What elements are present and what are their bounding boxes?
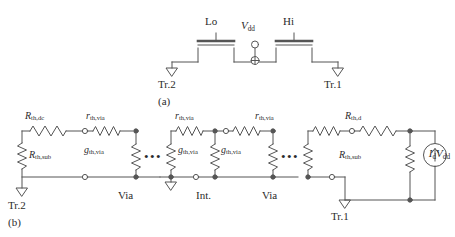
g-th-via-right-subscript: th,via [226, 148, 241, 155]
r-th-d-label: Rth,d [345, 111, 361, 122]
panel-a-ground-left-label: Tr.2 [158, 79, 176, 90]
gate-lo-label: Lo [205, 16, 217, 27]
current-source-label: IdVdd [429, 148, 450, 161]
figure-vector-layer [0, 0, 455, 237]
gate-hi-label: Hi [283, 16, 294, 27]
r-th-via-mid-label: rth,via [175, 111, 194, 122]
r-th-via-left-label: rth,via [86, 111, 105, 122]
voltage-subscript: dd [443, 153, 450, 161]
ellipsis-right: ••• [281, 150, 299, 163]
g-th-via-right-label: gth,via [221, 145, 241, 156]
region-label-via-left: Via [118, 190, 133, 201]
vdd-symbol: V [241, 19, 248, 31]
region-label-int: Int. [196, 190, 211, 201]
r-th-via-right-subscript: th,via [259, 114, 274, 121]
panel-b-ground-tr1-label: Tr.1 [331, 211, 349, 222]
g-th-via-mid-subscript: th,via [183, 148, 198, 155]
r-th-via-right-label: rth,via [255, 111, 274, 122]
thermal-network-figure: Lo Hi Vdd Tr.2 Tr.1 (a) Rth,dc rth,via r… [0, 0, 455, 237]
r-th-via-left-subscript: th,via [90, 114, 105, 121]
panel-b-ground-tr2-label: Tr.2 [8, 200, 26, 211]
r-th-sub-left-subscript: th,sub [35, 153, 51, 160]
r-th-d-subscript: th,d [351, 114, 361, 121]
vdd-label: Vdd [241, 20, 255, 33]
caption-a: (a) [158, 96, 170, 107]
r-th-sub-right-subscript: th,sub [345, 153, 361, 160]
g-th-via-left-label: gth,via [84, 145, 104, 156]
panel-b-network [17, 126, 447, 208]
r-th-sub-right-label: Rth,sub [339, 150, 361, 161]
vdd-subscript: dd [248, 25, 255, 33]
caption-b: (b) [8, 217, 21, 228]
region-label-via-right: Via [262, 190, 277, 201]
r-th-via-mid-subscript: th,via [179, 114, 194, 121]
ellipsis-left: ••• [144, 150, 162, 163]
panel-a-schematic [167, 33, 344, 76]
r-th-dc-subscript: th,dc [31, 114, 44, 121]
r-th-sub-left-label: Rth,sub [29, 150, 51, 161]
g-th-via-left-subscript: th,via [89, 148, 104, 155]
g-th-via-mid-label: gth,via [178, 145, 198, 156]
r-th-dc-label: Rth,dc [25, 111, 44, 122]
panel-a-ground-right-label: Tr.1 [324, 79, 342, 90]
